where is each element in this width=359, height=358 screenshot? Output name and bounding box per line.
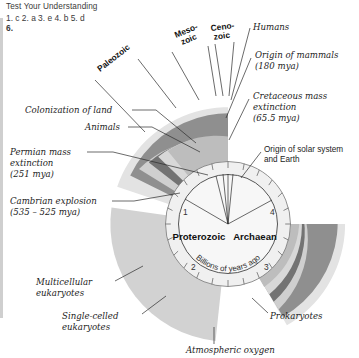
era-leader-paleozoic-2 bbox=[138, 59, 176, 108]
callout-origin-of-mammals-line2: (180 mya) bbox=[255, 61, 299, 71]
eon-label-archaean: Archaean bbox=[233, 231, 277, 242]
dial-number-3: 3 bbox=[264, 262, 269, 272]
callout-cambrian-line2: (535 – 525 mya) bbox=[10, 207, 80, 217]
leader-humans bbox=[231, 28, 250, 100]
callout-colonization-of-land: Colonization of land bbox=[25, 105, 113, 115]
era-label-cenozoic: Ceno- zoic bbox=[210, 20, 236, 42]
callout-prokaryotes: Prokaryotes bbox=[269, 311, 323, 321]
eon-label-proterozoic: Proterozoic bbox=[173, 231, 226, 242]
callout-multicellular-line1: Multicellular bbox=[35, 277, 93, 287]
callout-humans: Humans bbox=[252, 22, 290, 32]
callout-permian-line1: Permian mass bbox=[9, 147, 72, 157]
era-leader-cenozoic bbox=[215, 44, 223, 96]
era-label-mesozoic: Meso- zoic bbox=[173, 21, 203, 48]
callout-single-celled-line1: Single-celled bbox=[62, 311, 119, 321]
callout-multicellular-line2: eukaryotes bbox=[36, 288, 85, 298]
callout-cretaceous-line1: Cretaceous mass bbox=[253, 91, 328, 101]
callout-cretaceous-line2: extinction bbox=[253, 102, 296, 112]
callout-permian-line2: extinction bbox=[10, 158, 53, 168]
era-leader-mesozoic-2 bbox=[208, 46, 216, 96]
era-label-paleozoic: Paleozoic bbox=[95, 42, 132, 74]
dial-number-1: 1 bbox=[183, 207, 188, 217]
callout-single-celled-line2: eukaryotes bbox=[62, 322, 111, 332]
figure-page: Test Your Understanding 1. c 2. a 3. e 4… bbox=[0, 0, 359, 358]
callout-origin-solar-line1: Origin of solar system bbox=[264, 145, 343, 154]
callout-atmospheric-oxygen: Atmospheric oxygen bbox=[185, 345, 275, 355]
callout-cretaceous-line3: (65.5 mya) bbox=[253, 113, 300, 123]
era-leader-cenozoic-2 bbox=[229, 42, 234, 96]
callout-animals: Animals bbox=[84, 122, 121, 132]
era-label-cenozoic-line2: zoic bbox=[213, 30, 231, 42]
callout-permian-line3: (251 mya) bbox=[10, 169, 54, 179]
leader-prokaryotes bbox=[252, 298, 268, 313]
geologic-clock-figure: Proterozoic Archaean 1 2 3 4 Billions of… bbox=[0, 0, 359, 358]
dial-number-4: 4 bbox=[270, 207, 275, 217]
callout-cambrian-line1: Cambrian explosion bbox=[10, 196, 97, 206]
callout-origin-solar-line2: and Earth bbox=[264, 155, 300, 164]
dial-number-2: 2 bbox=[191, 262, 196, 272]
era-leader-mesozoic bbox=[172, 52, 199, 100]
callout-origin-of-mammals-line1: Origin of mammals bbox=[255, 50, 339, 60]
